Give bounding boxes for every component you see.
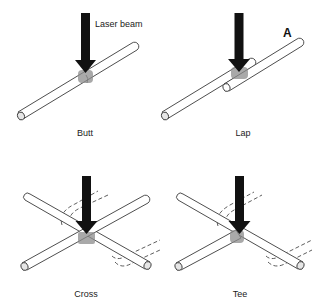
- butt-laser-arrow-icon: [75, 13, 96, 73]
- panel-butt: Laser beam Butt: [16, 13, 142, 138]
- tee-label: Tee: [233, 289, 248, 299]
- joint-diagram: Laser beam Butt A Lap: [0, 0, 326, 305]
- lap-label: Lap: [235, 128, 250, 138]
- butt-rod: [16, 42, 138, 121]
- panel-cross: Cross: [20, 176, 160, 299]
- marker-a-label: A: [283, 26, 292, 40]
- panel-tee: Tee: [174, 176, 312, 299]
- panel-lap: A Lap: [160, 13, 303, 138]
- butt-label: Butt: [77, 128, 94, 138]
- tee-weld-zone: [230, 230, 244, 243]
- laser-beam-label: Laser beam: [95, 19, 143, 29]
- cross-label: Cross: [74, 289, 98, 299]
